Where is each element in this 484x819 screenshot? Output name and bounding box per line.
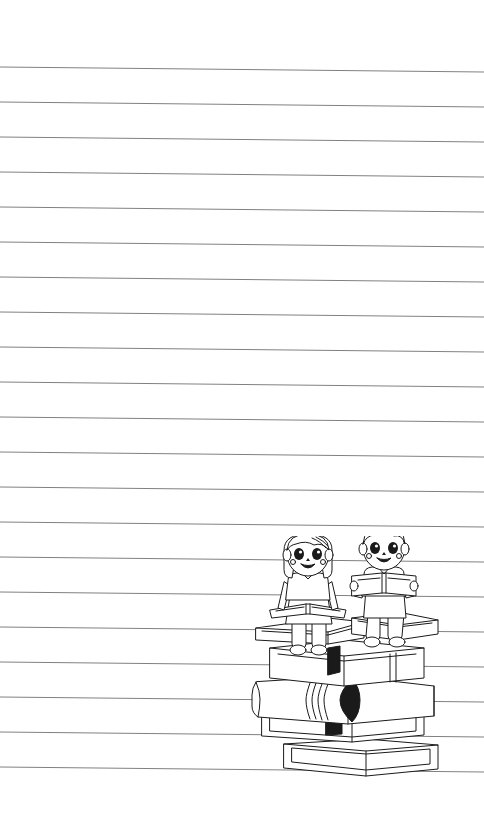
ruled-line bbox=[0, 67, 484, 72]
girl-left-eye bbox=[294, 548, 304, 560]
ruled-line bbox=[0, 277, 484, 282]
girl-left-ear bbox=[283, 549, 291, 561]
girl-right-shoe bbox=[311, 645, 327, 655]
girl-right-eye bbox=[312, 548, 322, 560]
boy-right-ear bbox=[401, 543, 409, 555]
writing-paper-page: Lined writing paper with books illustrat… bbox=[0, 0, 484, 819]
ruled-line bbox=[0, 102, 484, 107]
boy-left-ear bbox=[359, 543, 367, 555]
ruled-line bbox=[0, 137, 484, 142]
page-title: Lined writing paper with books illustrat… bbox=[0, 21, 1, 22]
boy-right-eye bbox=[388, 542, 398, 554]
boy-left-shoe bbox=[364, 637, 380, 647]
ruled-line bbox=[0, 347, 484, 352]
boy-left-eye bbox=[370, 542, 380, 554]
ruled-line bbox=[0, 452, 484, 457]
ruled-line bbox=[0, 487, 484, 492]
children-on-book-stack-illustration bbox=[248, 536, 444, 784]
boy-open-book bbox=[352, 573, 416, 596]
ruled-line bbox=[0, 382, 484, 387]
girl-right-ear bbox=[325, 549, 333, 561]
ruled-line bbox=[0, 242, 484, 247]
girl-left-shoe bbox=[290, 645, 306, 655]
boy-shorts bbox=[364, 594, 406, 618]
ruled-line bbox=[0, 172, 484, 177]
ruled-line bbox=[0, 312, 484, 317]
ruled-line bbox=[0, 417, 484, 422]
ruled-line bbox=[0, 207, 484, 212]
boy-left-hand bbox=[350, 581, 358, 591]
boy-right-hand bbox=[410, 581, 418, 591]
ruled-line bbox=[0, 522, 484, 527]
boy-right-shoe bbox=[389, 637, 405, 647]
book-bottom-base bbox=[284, 739, 438, 776]
